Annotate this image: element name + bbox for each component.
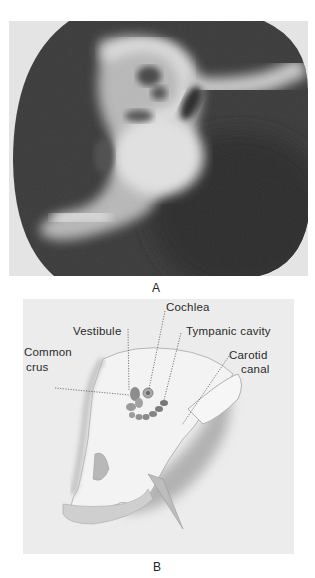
label-carotid-canal-line2: canal xyxy=(241,363,270,376)
panel-b-drawing: Cochlea Vestibule Tympanic cavity Common… xyxy=(23,299,294,554)
cochlea-structure xyxy=(143,388,153,398)
panel-letter-b: B xyxy=(153,560,161,574)
label-common-crus-line1: Common xyxy=(24,346,72,359)
label-common-crus-line2: crus xyxy=(26,361,49,374)
label-carotid-canal-line1: Carotid xyxy=(229,349,267,362)
label-cochlea: Cochlea xyxy=(166,301,210,314)
label-vestibule: Vestibule xyxy=(73,325,121,338)
panel-a-radiograph xyxy=(9,21,308,276)
radiograph-image xyxy=(9,21,308,276)
label-tympanic-cavity: Tympanic cavity xyxy=(186,325,271,338)
panel-letter-a: A xyxy=(152,281,160,295)
